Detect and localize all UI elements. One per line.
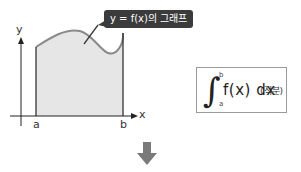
upper-limit: b — [219, 71, 223, 79]
down-arrow-icon — [137, 142, 157, 165]
y-axis-label: y — [16, 23, 23, 36]
integral-formula-box: ∫ b a f(x) dx (적분) — [196, 67, 287, 113]
y-axis-arrow-icon — [18, 37, 24, 44]
integral-annotation: (적분) — [260, 84, 283, 97]
x-axis-arrow-icon — [131, 113, 138, 119]
interval-label-b: b — [120, 118, 127, 131]
graph-callout-label: y = f(x)의 그래프 — [104, 10, 193, 28]
lower-limit: a — [219, 100, 223, 108]
interval-label-a: a — [33, 118, 40, 131]
x-axis-label: x — [139, 108, 146, 121]
shaded-area — [36, 30, 123, 116]
